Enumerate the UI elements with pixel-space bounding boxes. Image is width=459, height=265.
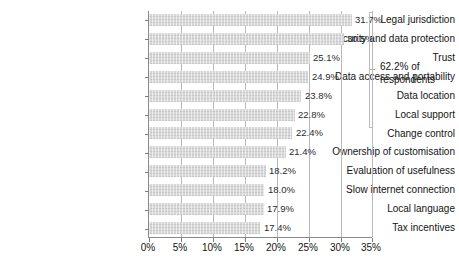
- bar-row: 24.9%: [149, 68, 372, 87]
- bar-value-label: 24.9%: [312, 69, 339, 85]
- annotation-line-1: 62.2% of: [380, 60, 458, 73]
- bar[interactable]: [149, 71, 308, 83]
- bar[interactable]: [149, 14, 352, 26]
- plot-area: 31.7% 30.5% 25.1% 24.9% 23.8% 22.8%: [148, 11, 372, 238]
- x-tick-label: 35%: [356, 241, 386, 254]
- bar-row: 17.4%: [149, 219, 372, 238]
- bar[interactable]: [149, 203, 264, 215]
- bar-chart: Legal jurisdiction Security and data pro…: [0, 0, 459, 265]
- bar[interactable]: [149, 184, 264, 196]
- bar-value-label: 25.1%: [313, 50, 340, 66]
- bar[interactable]: [149, 146, 286, 158]
- bar[interactable]: [149, 109, 295, 121]
- bar[interactable]: [149, 165, 266, 177]
- annotation-line-2: respondents: [380, 73, 458, 86]
- bar-value-label: 22.8%: [298, 107, 325, 123]
- x-tick-label: 25%: [293, 241, 323, 254]
- x-tick-label: 10%: [197, 241, 227, 254]
- bar-value-label: 23.8%: [305, 88, 332, 104]
- x-tick-label: 30%: [325, 241, 355, 254]
- bar-value-label: 21.4%: [289, 144, 316, 160]
- bar[interactable]: [149, 90, 301, 102]
- bar-value-label: 18.0%: [268, 182, 295, 198]
- bar-value-label: 17.9%: [267, 201, 294, 217]
- bar-row: 31.7%: [149, 11, 372, 30]
- bar-row: 21.4%: [149, 143, 372, 162]
- bar-row: 22.8%: [149, 106, 372, 125]
- bar-value-label: 18.2%: [269, 163, 296, 179]
- page-bleed-text: [0, 258, 459, 265]
- bar-value-label: 17.4%: [264, 220, 291, 236]
- bar-row: 30.5%: [149, 30, 372, 49]
- x-tick-label: 5%: [165, 241, 195, 254]
- bar-row: 17.9%: [149, 200, 372, 219]
- bar-row: 22.4%: [149, 124, 372, 143]
- x-tick-label: 0%: [133, 241, 163, 254]
- annotation-pointer-icon: [370, 69, 375, 70]
- bar-row: 23.8%: [149, 87, 372, 106]
- bar-row: 18.2%: [149, 162, 372, 181]
- bar-value-label: 22.4%: [296, 125, 323, 141]
- bar-row: 25.1%: [149, 49, 372, 68]
- annotation-label: 62.2% of respondents: [380, 60, 458, 86]
- annotation-bracket: [369, 12, 370, 128]
- bar[interactable]: [149, 33, 344, 45]
- bar[interactable]: [149, 127, 292, 139]
- bar-row: 18.0%: [149, 181, 372, 200]
- bar[interactable]: [149, 222, 260, 234]
- x-tick-label: 15%: [229, 241, 259, 254]
- x-tick-label: 20%: [261, 241, 291, 254]
- bar[interactable]: [149, 52, 310, 64]
